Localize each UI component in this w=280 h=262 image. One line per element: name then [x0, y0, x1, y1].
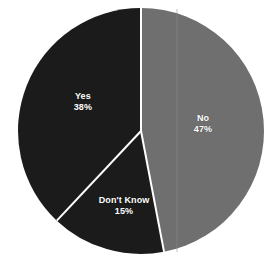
slice-label-yes: Yes 38%: [74, 91, 92, 113]
pie-chart-canvas: [0, 0, 280, 262]
slice-label-yes-name: Yes: [74, 91, 92, 102]
pie-chart: No 47% Don't Know 15% Yes 38%: [0, 0, 280, 262]
slice-label-no: No 47%: [194, 113, 212, 135]
slice-label-no-value: 47%: [194, 124, 212, 135]
slice-label-dont-know-value: 15%: [99, 206, 150, 217]
slice-label-dont-know-name: Don't Know: [99, 195, 150, 206]
slice-label-dont-know: Don't Know 15%: [99, 195, 150, 217]
slice-label-no-name: No: [194, 113, 212, 124]
slice-label-yes-value: 38%: [74, 102, 92, 113]
